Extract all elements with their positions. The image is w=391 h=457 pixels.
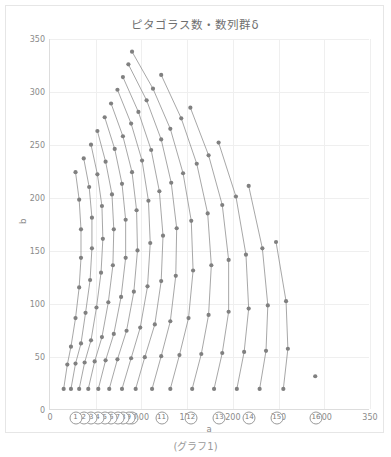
data-point-marker (135, 248, 139, 252)
data-point-marker (209, 263, 213, 267)
data-point-marker (136, 110, 140, 114)
data-point-marker (104, 358, 108, 362)
data-point-marker (112, 332, 116, 336)
data-point-marker (109, 101, 113, 105)
y-tick-label: 0 (40, 406, 45, 415)
data-point-marker (175, 226, 179, 230)
data-point-marker (206, 313, 210, 317)
data-point-marker (129, 121, 133, 125)
data-point-marker (129, 356, 133, 360)
data-point-marker (174, 274, 178, 278)
data-point-marker (191, 268, 195, 272)
data-point-marker (89, 143, 93, 147)
data-point-marker (100, 204, 104, 208)
data-point-marker (274, 240, 278, 244)
data-point-marker (258, 387, 262, 391)
y-tick-label: 350 (30, 35, 45, 44)
x-tick-label: 0 (47, 413, 52, 422)
data-point-marker (83, 360, 87, 364)
data-point-marker (77, 198, 81, 202)
data-point-marker (113, 147, 117, 151)
data-point-marker (62, 387, 66, 391)
data-point-marker (100, 335, 104, 339)
y-tick-label: 100 (30, 300, 45, 309)
data-point-marker (217, 141, 221, 145)
y-tick-label: 50 (35, 353, 45, 362)
series-line (71, 158, 92, 388)
data-point-marker (264, 349, 268, 353)
data-point-marker (77, 387, 81, 391)
data-point-marker (86, 387, 90, 391)
data-point-marker (130, 170, 134, 174)
data-point-marker (77, 285, 81, 289)
data-point-marker (107, 387, 111, 391)
series-line (64, 172, 81, 389)
data-point-marker (115, 357, 119, 361)
data-point-marker (120, 182, 124, 186)
data-point-marker (87, 185, 91, 189)
data-point-marker (99, 271, 103, 275)
data-point-marker (159, 354, 163, 358)
data-point-marker (190, 387, 194, 391)
series-index-label: 11 (155, 412, 168, 425)
data-point-marker (140, 158, 144, 162)
data-point-marker (95, 129, 99, 133)
series-index-label: 12 (184, 412, 197, 425)
data-point-marker (159, 279, 163, 283)
data-point-marker (181, 171, 185, 175)
data-point-marker (220, 351, 224, 355)
plot-area: 050100150200250300350 050100150200250300… (49, 39, 369, 410)
data-point-marker (130, 50, 134, 54)
series-index-label: 16 (310, 412, 323, 425)
data-point-marker (161, 234, 165, 238)
data-point-marker (90, 246, 94, 250)
data-point-marker (73, 361, 77, 365)
gridline-vertical (370, 39, 371, 409)
data-point-marker (119, 295, 123, 299)
data-point-marker (79, 256, 83, 260)
data-point-marker (134, 208, 138, 212)
data-point-marker (188, 106, 192, 110)
data-point-marker (111, 263, 115, 267)
data-point-marker (143, 355, 147, 359)
y-axis-label: b (18, 219, 28, 224)
data-point-marker (112, 227, 116, 231)
data-point-marker (132, 290, 136, 294)
data-point-marker (82, 156, 86, 160)
data-point-marker (110, 192, 114, 196)
series-line (249, 186, 268, 389)
data-point-marker (153, 322, 157, 326)
data-point-marker (244, 253, 248, 257)
series-line (132, 52, 193, 389)
data-point-marker (145, 284, 149, 288)
series-line (123, 77, 163, 389)
series-line (128, 64, 176, 389)
data-point-marker (138, 326, 142, 330)
data-point-marker (95, 172, 99, 176)
data-point-marker (186, 316, 190, 320)
chart-title: ピタゴラス数・数列群δ (6, 16, 385, 32)
data-point-marker (235, 387, 239, 391)
data-point-marker (227, 258, 231, 262)
data-point-marker (89, 338, 93, 342)
chart-frame: ピタゴラス数・数列群δ b a 050100150200250300350 05… (5, 5, 384, 433)
data-point-marker (159, 73, 163, 77)
data-point-marker (79, 227, 83, 231)
y-tick-label: 150 (30, 247, 45, 256)
data-point-marker (206, 211, 210, 215)
data-point-marker (124, 218, 128, 222)
data-point-marker (189, 219, 193, 223)
figure-container: ピタゴラス数・数列群δ b a 050100150200250300350 05… (0, 0, 391, 457)
data-point-marker (234, 194, 238, 198)
figure-caption: (グラフ1) (0, 438, 391, 457)
data-point-marker (151, 87, 155, 91)
data-point-marker (65, 363, 69, 367)
data-point-marker (126, 62, 130, 66)
data-point-marker (145, 98, 149, 102)
data-point-marker (169, 181, 173, 185)
data-point-marker (73, 316, 77, 320)
data-point-marker (83, 311, 87, 315)
data-series-layer (50, 39, 369, 409)
data-point-marker (177, 353, 181, 357)
data-point-marker (146, 199, 150, 203)
